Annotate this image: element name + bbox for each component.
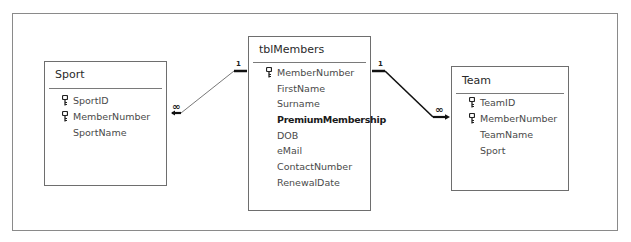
primary-key-icon — [62, 95, 68, 106]
table-sport[interactable]: Sport SportID MemberNumber SportName — [44, 61, 167, 186]
primary-key-icon — [469, 113, 475, 124]
field-name: Surname — [277, 98, 320, 109]
field-row[interactable]: MemberNumber — [452, 112, 568, 127]
primary-key-icon — [62, 111, 68, 122]
table-title: Sport — [55, 68, 85, 81]
field-row[interactable]: DOB — [249, 129, 370, 144]
divider — [49, 88, 162, 89]
field-name: DOB — [277, 130, 298, 141]
field-name: PremiumMembership — [277, 114, 386, 125]
field-row[interactable]: SportID — [45, 94, 166, 109]
field-row[interactable]: eMail — [249, 144, 370, 159]
field-name: SportID — [73, 95, 109, 106]
field-row[interactable]: FirstName — [249, 82, 370, 97]
field-name: TeamName — [480, 129, 533, 140]
divider — [253, 62, 366, 63]
field-name: Sport — [480, 145, 506, 156]
field-name: eMail — [277, 145, 302, 156]
table-team[interactable]: Team TeamID MemberNumber TeamName Sport — [451, 66, 569, 191]
field-name: MemberNumber — [480, 113, 557, 124]
field-row[interactable]: TeamID — [452, 96, 568, 111]
field-row[interactable]: ContactNumber — [249, 160, 370, 175]
field-row[interactable]: Sport — [452, 144, 568, 159]
cardinality-many-right: ∞ — [435, 104, 442, 115]
field-name: RenewalDate — [277, 177, 340, 188]
field-row[interactable]: TeamName — [452, 128, 568, 143]
cardinality-one-right: 1 — [378, 60, 383, 68]
table-title: tblMembers — [259, 43, 324, 56]
primary-key-icon — [266, 67, 272, 78]
divider — [456, 93, 564, 94]
field-row[interactable]: RenewalDate — [249, 176, 370, 191]
field-row[interactable]: SportName — [45, 126, 166, 141]
table-tblmembers[interactable]: tblMembers MemberNumber FirstName Surnam… — [248, 36, 371, 211]
field-name: FirstName — [277, 83, 325, 94]
table-title: Team — [462, 74, 491, 87]
field-name: TeamID — [480, 97, 515, 108]
field-name: SportName — [73, 127, 127, 138]
field-row[interactable]: Surname — [249, 97, 370, 112]
cardinality-one-left: 1 — [236, 60, 241, 68]
field-name: MemberNumber — [73, 111, 150, 122]
field-name: ContactNumber — [277, 161, 352, 172]
cardinality-many-left: ∞ — [172, 101, 179, 112]
field-name: MemberNumber — [277, 67, 354, 78]
primary-key-icon — [469, 97, 475, 108]
field-row[interactable]: MemberNumber — [249, 66, 370, 81]
field-row[interactable]: MemberNumber — [45, 110, 166, 125]
relationship-members-sport[interactable] — [171, 71, 247, 116]
field-row[interactable]: PremiumMembership — [249, 113, 370, 128]
